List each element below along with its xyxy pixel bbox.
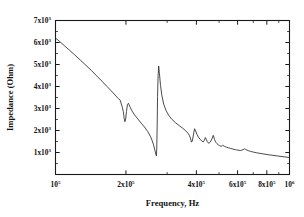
chart-canvas: 1052x1054x1056x1058x1051061x1032x1033x10… [0,0,304,217]
y-tick-label: 3x103 [34,104,52,113]
y-tick-label: 4x103 [34,82,52,91]
y-tick-label: 2x103 [34,126,52,135]
x-tick-label: 106 [285,180,295,189]
y-tick-label: 7x103 [34,16,52,25]
plot-frame [56,21,290,175]
y-tick-label: 1x103 [34,148,52,157]
y-tick-label: 6x103 [34,38,52,47]
y-axis-title: Impedance (Ohm) [5,64,15,131]
x-axis-title: Frequency, Hz [146,198,199,208]
x-tick-label: 4x105 [188,180,206,189]
x-tick-label: 2x105 [117,180,135,189]
impedance-spectrum-figure: 1052x1054x1056x1058x1051061x1032x1033x10… [0,0,304,217]
impedance-curve [56,38,290,157]
x-tick-label: 8x105 [258,180,276,189]
y-tick-label: 5x103 [34,60,52,69]
x-tick-label: 6x105 [229,180,247,189]
x-tick-label: 105 [51,180,61,189]
